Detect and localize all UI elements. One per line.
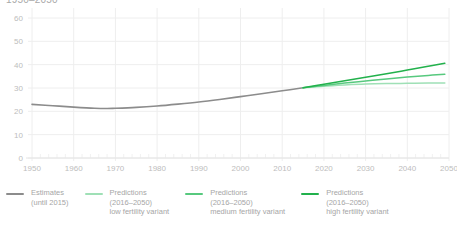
vertical-gridlines [26,8,449,161]
legend-line-1: Estimates [31,188,69,198]
legend-line-2: (2016–2050) [326,198,389,208]
svg-text:40: 40 [14,61,23,70]
svg-text:2040: 2040 [398,164,416,173]
svg-text:2020: 2020 [315,164,333,173]
legend-line-1: Predictions [110,188,170,198]
svg-text:1950: 1950 [23,164,41,173]
legend-line-3: high fertility variant [326,207,389,217]
svg-text:2050: 2050 [440,164,457,173]
svg-text:2010: 2010 [273,164,291,173]
legend-swatch-low-fertility [85,193,103,195]
chart-legend: Estimates (until 2015) Predictions (2016… [6,188,457,228]
svg-text:60: 60 [14,14,23,23]
legend-line-1: Predictions [210,188,285,198]
legend-item-high-fertility[interactable]: Predictions (2016–2050) high fertility v… [301,188,389,217]
legend-item-medium-fertility[interactable]: Predictions (2016–2050) medium fertility… [185,188,285,217]
legend-swatch-estimates [6,193,24,195]
x-axis-tick-labels: 1950196019701980199020002010202020302040… [23,164,457,173]
svg-text:20: 20 [14,107,23,116]
legend-line-3: medium fertility variant [210,207,285,217]
svg-text:30: 30 [14,84,23,93]
series-line-estimates [32,88,303,109]
svg-text:1970: 1970 [107,164,125,173]
svg-text:0: 0 [19,154,24,163]
legend-line-2: (until 2015) [31,198,69,208]
y-axis-tick-labels: 0102030405060 [14,14,23,163]
legend-swatch-medium-fertility [185,193,203,195]
legend-label-high-fertility: Predictions (2016–2050) high fertility v… [326,188,389,217]
svg-text:1980: 1980 [148,164,166,173]
chart-plot-area: 0102030405060 19501960197019801990200020… [0,0,457,180]
line-chart-svg: 0102030405060 19501960197019801990200020… [0,0,457,180]
legend-line-2: (2016–2050) [210,198,285,208]
svg-text:50: 50 [14,37,23,46]
svg-text:2000: 2000 [232,164,250,173]
legend-label-low-fertility: Predictions (2016–2050) low fertility va… [110,188,170,217]
svg-text:1960: 1960 [65,164,83,173]
legend-line-1: Predictions [326,188,389,198]
legend-line-3: low fertility variant [110,207,170,217]
legend-item-low-fertility[interactable]: Predictions (2016–2050) low fertility va… [85,188,170,217]
legend-swatch-high-fertility [301,193,319,195]
legend-item-estimates[interactable]: Estimates (until 2015) [6,188,69,207]
svg-text:10: 10 [14,131,23,140]
legend-label-estimates: Estimates (until 2015) [31,188,69,207]
svg-text:1990: 1990 [190,164,208,173]
horizontal-gridlines [28,18,449,158]
legend-label-medium-fertility: Predictions (2016–2050) medium fertility… [210,188,285,217]
svg-text:2030: 2030 [357,164,375,173]
legend-line-2: (2016–2050) [110,198,170,208]
data-series-group [32,63,445,108]
